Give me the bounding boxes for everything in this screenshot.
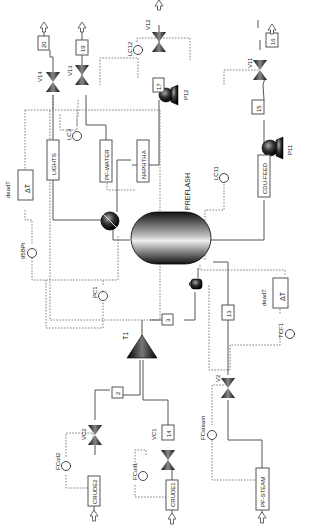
- valve-v11-label: V11: [247, 57, 253, 68]
- outlet-arrow-19: [78, 22, 86, 32]
- controller-lc12[interactable]: [134, 46, 143, 55]
- delta-t-bottom[interactable]: ΔT: [273, 278, 288, 308]
- controller-tcf1[interactable]: [286, 330, 295, 339]
- valve-v14-label: V14: [37, 71, 43, 82]
- preflash-vessel[interactable]: [131, 212, 211, 264]
- controller-fcoil2-label: FCoil2: [55, 452, 61, 470]
- inlet-arrow-steam: [258, 512, 266, 523]
- svg-text:14: 14: [166, 430, 172, 437]
- inlet-arrow-crude2: [90, 510, 98, 521]
- stream-2[interactable]: 2: [112, 387, 123, 398]
- controller-lc11-label: LC11: [213, 165, 219, 180]
- controller-pc1[interactable]: [99, 292, 108, 301]
- stream-3[interactable]: 3: [162, 314, 173, 325]
- process-flow-diagram: PREFLASH T1 P12 P11 V14 V13 V12: [0, 0, 310, 530]
- svg-text:PF-WATER: PF-WATER: [104, 149, 110, 180]
- outlet-arrow-20: [40, 22, 48, 32]
- svg-text:17: 17: [156, 83, 162, 90]
- stream-crude1[interactable]: CRUDE1: [166, 480, 178, 510]
- svg-text:20: 20: [41, 41, 47, 48]
- valve-v14[interactable]: [46, 72, 60, 92]
- valve-v12-label: V12: [145, 19, 151, 30]
- svg-text:15: 15: [256, 105, 262, 112]
- stream-17[interactable]: 17: [153, 78, 164, 92]
- controller-fcoil2[interactable]: [62, 462, 71, 471]
- svg-text:PF-STEAM: PF-STEAM: [260, 477, 266, 507]
- controller-fcoil1[interactable]: [139, 472, 148, 481]
- controller-lc12-label: LC12: [127, 41, 133, 56]
- stream-cdu-feed[interactable]: CDU-FEED: [258, 155, 270, 197]
- stream-15[interactable]: 15: [252, 100, 264, 114]
- valve-v13[interactable]: [75, 65, 89, 85]
- stream-19[interactable]: 19: [76, 40, 88, 55]
- stream-13[interactable]: 13: [222, 305, 234, 320]
- svg-text:ΔT: ΔT: [24, 183, 31, 193]
- svg-text:CRUDE1: CRUDE1: [170, 482, 176, 507]
- mixer-t1[interactable]: [127, 335, 157, 358]
- delta-t-top[interactable]: ΔT: [18, 170, 33, 200]
- svg-text:LIGHTS: LIGHTS: [51, 153, 57, 175]
- controller-tcf1-label: TCF1: [278, 322, 284, 338]
- valve-vc1-label: VC1: [151, 428, 157, 440]
- valve-v13-label: V13: [67, 65, 73, 76]
- valve-vc1[interactable]: [161, 450, 175, 470]
- stream-crude2[interactable]: CRUDE2: [88, 476, 100, 506]
- controller-lc3-label: LC3: [66, 128, 72, 140]
- svg-text:CRUDE2: CRUDE2: [92, 479, 98, 504]
- preflash-label: PREFLASH: [184, 173, 191, 210]
- stream-naphtha[interactable]: NAPHTHA: [137, 140, 149, 182]
- svg-text:19: 19: [80, 45, 86, 52]
- pump-p12-label: P12: [183, 89, 189, 100]
- controller-lc3[interactable]: [73, 132, 82, 141]
- controller-95bpt-label: 95BPt: [20, 242, 26, 259]
- stream-16[interactable]: 16: [266, 33, 278, 47]
- pump-p11-label: P11: [287, 144, 293, 155]
- valve-v2-label: V2: [215, 374, 221, 382]
- controller-lc11[interactable]: [220, 174, 229, 183]
- svg-text:CDU-FEED: CDU-FEED: [262, 162, 268, 194]
- stream-lights[interactable]: LIGHTS: [47, 140, 59, 180]
- controller-pc1-label: PC1: [92, 286, 98, 298]
- svg-text:NAPHTHA: NAPHTHA: [141, 150, 147, 179]
- controller-fcoil1-label: FCoil1: [132, 462, 138, 480]
- stream-14[interactable]: 14: [162, 425, 174, 440]
- bottom-heater[interactable]: [189, 279, 202, 289]
- mixer-t1-label: T1: [122, 332, 129, 340]
- svg-text:13: 13: [226, 310, 232, 317]
- delta-t-top-label: deadT: [5, 181, 11, 198]
- valve-v12[interactable]: [152, 32, 166, 52]
- delta-t-bottom-label: deadT: [261, 289, 267, 306]
- svg-text:ΔT: ΔT: [279, 291, 286, 301]
- stream-20[interactable]: 20: [38, 36, 49, 50]
- controller-fcsteam-label: FCsteam: [200, 416, 206, 440]
- svg-text:16: 16: [270, 38, 276, 45]
- valve-vc2[interactable]: [88, 425, 102, 445]
- controller-95bpt[interactable]: [28, 249, 37, 258]
- stream-pf-steam[interactable]: PF-STEAM: [256, 468, 269, 510]
- outlet-arrow-12: [155, 0, 163, 10]
- heat-exchanger[interactable]: [101, 212, 119, 230]
- valve-v2[interactable]: [221, 378, 235, 398]
- controller-fcsteam[interactable]: [208, 431, 217, 440]
- stream-pf-water[interactable]: PF-WATER: [100, 140, 112, 182]
- signal-lines: [25, 38, 285, 497]
- valve-vc2-label: VC2: [81, 428, 87, 440]
- inlet-arrow-crude1: [168, 513, 176, 524]
